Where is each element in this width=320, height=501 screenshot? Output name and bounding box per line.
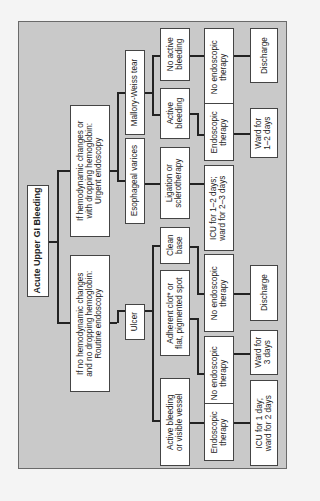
adherent-no-endoscopic-therapy-text: No endoscopic therapy — [210, 346, 228, 400]
mw-endoscopic-therapy-text: Endoscopic therapy — [210, 111, 228, 153]
mw-ward-text: Ward for 1–2 days — [255, 116, 273, 149]
mw-no-endoscopic-therapy-box: No endoscopic therapy — [204, 28, 234, 106]
adherent-clot-box: Adherent clot* or flat, pigmented spot — [160, 270, 190, 356]
mallory-weiss-box: Mallory-Weiss tear — [125, 50, 145, 135]
mw-endoscopic-therapy-box: Endoscopic therapy — [204, 103, 234, 161]
urgent-endoscopy-box: If hemodynamic changes or with dropping … — [70, 105, 110, 237]
connector — [152, 245, 154, 421]
clean-base-box: Clean base — [160, 227, 190, 264]
connector — [57, 322, 70, 324]
clean-discharge-text: Discharge — [259, 275, 268, 312]
connector — [190, 318, 197, 320]
active-endoscopic-therapy-box: Endoscopic therapy — [204, 403, 234, 461]
connector — [110, 322, 117, 324]
connector — [190, 183, 204, 185]
urgent-endoscopy-text: If hemodynamic changes or with dropping … — [76, 121, 104, 222]
routine-endoscopy-box: If no hemodynamic changes and no droppin… — [70, 255, 110, 392]
connector — [145, 92, 152, 94]
routine-endoscopy-text: If no hemodynamic changes and no droppin… — [76, 270, 104, 376]
mw-no-active-bleeding-box: No active bleeding — [160, 28, 190, 81]
ligation-box: Ligation or sclerotherapy — [160, 147, 190, 219]
connector — [197, 113, 199, 135]
mw-no-endoscopic-therapy-text: No endoscopic therapy — [210, 40, 228, 94]
connector — [190, 55, 204, 57]
adherent-no-endoscopic-therapy-box: No endoscopic therapy — [204, 336, 234, 411]
varices-icu-box: ICU for 1–2 days; ward for 2–3 days — [204, 165, 234, 251]
connector — [152, 420, 160, 422]
varices-icu-text: ICU for 1–2 days; ward for 2–3 days — [210, 175, 228, 240]
active-bleeding-vessel-box: Active bleeding or visible vessel — [160, 378, 190, 466]
connector — [117, 180, 125, 182]
adherent-ward-text: Ward for 3 days — [255, 337, 273, 368]
clean-discharge-box: Discharge — [250, 265, 278, 321]
connector — [145, 310, 152, 312]
esophageal-varices-text: Esophageal varices — [130, 145, 139, 216]
title-text: Acute Upper GI Bleeding — [33, 188, 42, 294]
connector — [234, 293, 250, 295]
connector — [152, 114, 160, 116]
ligation-text: Ligation or sclerotherapy — [166, 158, 184, 207]
connector — [234, 55, 250, 57]
title-box: Acute Upper GI Bleeding — [27, 185, 49, 297]
connector — [117, 310, 125, 312]
connector — [117, 92, 125, 94]
active-icu-box: ICU for 1 day; ward for 2 days — [250, 380, 278, 466]
connector — [197, 246, 199, 294]
connector — [152, 55, 154, 115]
connector — [197, 318, 199, 374]
connector — [190, 113, 197, 115]
mw-active-bleeding-box: Active bleeding — [160, 88, 190, 139]
clean-no-endoscopic-therapy-box: No endoscopic therapy — [204, 254, 234, 332]
connector — [197, 373, 204, 375]
connector — [190, 246, 197, 248]
connector — [197, 134, 204, 136]
esophageal-varices-box: Esophageal varices — [125, 138, 145, 224]
connector — [110, 170, 117, 172]
active-icu-text: ICU for 1 day; ward for 2 days — [255, 395, 273, 451]
mw-discharge-box: Discharge — [250, 28, 278, 83]
connector — [117, 92, 119, 181]
connector — [145, 183, 160, 185]
connector — [152, 55, 160, 57]
mw-ward-box: Ward for 1–2 days — [250, 108, 278, 158]
connector — [234, 133, 250, 135]
connector — [197, 293, 204, 295]
connector — [234, 422, 250, 424]
connector — [57, 170, 70, 172]
mw-no-active-bleeding-text: No active bleeding — [166, 37, 184, 71]
active-bleeding-vessel-text: Active bleeding or visible vessel — [166, 393, 184, 451]
adherent-ward-box: Ward for 3 days — [250, 330, 278, 375]
mw-discharge-text: Discharge — [259, 37, 268, 74]
connector — [234, 353, 250, 355]
connector — [49, 241, 57, 243]
active-endoscopic-therapy-text: Endoscopic therapy — [210, 411, 228, 453]
connector — [190, 422, 204, 424]
ulcer-text: Ulcer — [130, 312, 139, 331]
connector — [57, 170, 59, 322]
mallory-weiss-text: Mallory-Weiss tear — [130, 59, 139, 127]
connector — [152, 245, 160, 247]
connector — [117, 310, 119, 323]
mw-active-bleeding-text: Active bleeding — [166, 98, 184, 129]
adherent-clot-text: Adherent clot* or flat, pigmented spot — [166, 277, 184, 348]
clean-no-endoscopic-therapy-text: No endoscopic therapy — [210, 266, 228, 320]
clean-base-text: Clean base — [166, 235, 184, 256]
ulcer-box: Ulcer — [125, 304, 145, 340]
